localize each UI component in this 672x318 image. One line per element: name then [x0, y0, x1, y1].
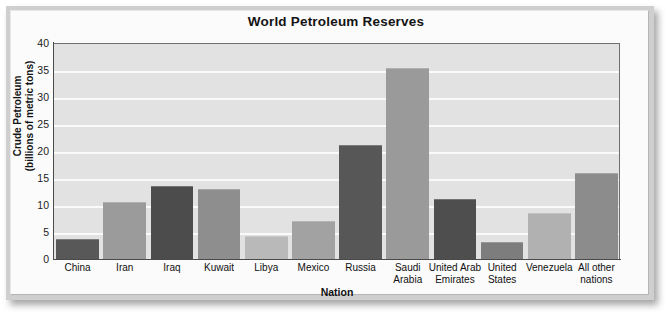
x-tick-label-line: United Arab	[428, 262, 481, 274]
chart-figure: World Petroleum Reserves 403530252015105…	[0, 0, 672, 318]
x-tick-label: UnitedStates	[476, 262, 529, 285]
y-tick-label: 0	[1, 253, 49, 265]
gridline	[54, 98, 619, 100]
gridline	[54, 125, 619, 127]
gridline	[54, 71, 619, 73]
plot-area	[54, 43, 620, 259]
y-axis-title-line1: Crude Petroleum	[12, 26, 24, 206]
chart-title: World Petroleum Reserves	[0, 14, 672, 29]
x-tick-label-line: All other	[570, 262, 623, 274]
x-tick-label-line: nations	[570, 274, 623, 286]
bar-venezuela	[528, 213, 571, 259]
x-tick-label: All othernations	[570, 262, 623, 285]
x-tick-label: SaudiArabia	[381, 262, 434, 285]
bar-kuwait	[198, 189, 241, 259]
x-tick-label-line: Kuwait	[193, 262, 246, 274]
x-axis-line	[53, 259, 621, 260]
x-axis-title: Nation	[54, 286, 620, 298]
x-tick-label-line: Mexico	[287, 262, 340, 274]
y-tick-label: 5	[1, 226, 49, 238]
gridline	[54, 179, 619, 181]
x-tick-label: Mexico	[287, 262, 340, 274]
x-tick-label: Kuwait	[193, 262, 246, 274]
bar-united-arab-emirates	[434, 199, 477, 259]
bar-saudi-arabia	[386, 68, 429, 259]
bar-united-states	[481, 242, 524, 259]
y-axis-title: Crude Petroleum (billions of metric tons…	[12, 26, 36, 206]
x-tick-label: United ArabEmirates	[428, 262, 481, 285]
x-tick-label-line: States	[476, 274, 529, 286]
x-tick-label-line: Arabia	[381, 274, 434, 286]
gridline	[54, 152, 619, 154]
bar-iraq	[151, 186, 194, 259]
x-tick-label: Libya	[240, 262, 293, 274]
x-tick-label: China	[51, 262, 104, 274]
bar-libya	[245, 236, 288, 259]
x-tick-label-line: Iran	[98, 262, 151, 274]
bar-all-other-nations	[575, 173, 618, 259]
bar-mexico	[292, 221, 335, 259]
y-axis-title-line2: (billions of metric tons)	[24, 26, 36, 206]
bar-russia	[339, 145, 382, 259]
x-tick-label-line: Russia	[334, 262, 387, 274]
x-tick-label-line: China	[51, 262, 104, 274]
y-axis-line	[53, 42, 54, 260]
x-tick-label: Venezuela	[523, 262, 576, 274]
x-tick-label: Iran	[98, 262, 151, 274]
x-tick-label: Russia	[334, 262, 387, 274]
x-tick-label-line: United	[476, 262, 529, 274]
x-tick-label-line: Iraq	[145, 262, 198, 274]
bar-china	[56, 239, 99, 259]
x-tick-label-line: Venezuela	[523, 262, 576, 274]
x-tick-label-line: Libya	[240, 262, 293, 274]
x-tick-label-line: Emirates	[428, 274, 481, 286]
bar-iran	[103, 202, 146, 259]
x-tick-label: Iraq	[145, 262, 198, 274]
x-tick-label-line: Saudi	[381, 262, 434, 274]
